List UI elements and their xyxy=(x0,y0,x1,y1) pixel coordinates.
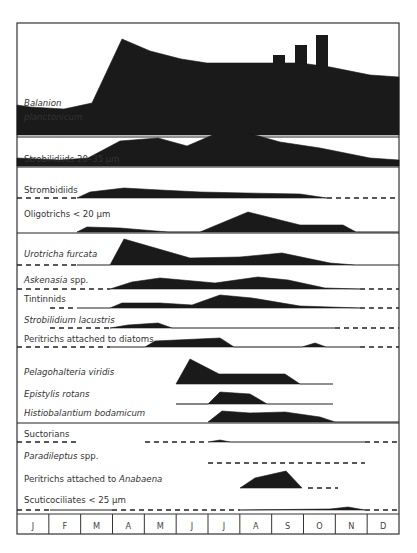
abundance-kite xyxy=(240,471,302,488)
series-label: Balanion xyxy=(24,98,61,108)
abundance-kite xyxy=(110,277,360,289)
month-label: F xyxy=(62,521,67,531)
abundance-kite xyxy=(110,295,360,308)
series-label: Histiobalantium bodamicum xyxy=(24,408,145,418)
series-suctorians: Suctorians xyxy=(17,429,399,442)
series-label: Paradileptus spp. xyxy=(24,451,98,461)
abundance-kite xyxy=(110,239,355,265)
abundance-kite xyxy=(110,323,172,328)
series-label: Strobilidiids 20–35 µm xyxy=(24,154,120,164)
chart-canvas: < 0.1< 0.3131030cells/mL Balanionplancto… xyxy=(0,0,417,553)
series-label: Peritrichs attached to diatoms xyxy=(24,334,154,344)
series-balanion-planctonicum: Balanionplanctonicum xyxy=(17,39,399,135)
abundance-kite xyxy=(208,440,230,442)
month-label: A xyxy=(253,521,259,531)
month-label: D xyxy=(380,521,386,531)
series-label: Strombidiids xyxy=(24,185,78,195)
series-label: Pelagohalteria viridis xyxy=(24,367,115,377)
series-pelagohalteria-viridis: Pelagohalteria viridis xyxy=(24,359,333,384)
abundance-kite xyxy=(77,188,327,198)
abundance-kite xyxy=(240,507,365,510)
series-paradileptus-spp-: Paradileptus spp. xyxy=(24,451,365,463)
series-strombidiids: Strombidiids xyxy=(17,185,399,198)
series-label: Peritrichs attached to Anabaena xyxy=(24,474,162,484)
abundance-kite xyxy=(176,359,300,384)
series-label: Suctorians xyxy=(24,429,70,439)
kite-chart: < 0.1< 0.3131030cells/mL Balanionplancto… xyxy=(0,0,417,553)
series-epistylis-rotans: Epistylis rotans xyxy=(24,389,333,404)
series-scuticociliates-25-m: Scuticociliates < 25 µm xyxy=(17,495,399,510)
abundance-kite xyxy=(77,212,356,232)
series-oligotrichs-20-m: Oligotrichs < 20 µm xyxy=(24,209,399,232)
abundance-kite xyxy=(145,338,326,347)
series-label: Oligotrichs < 20 µm xyxy=(24,209,110,219)
abundance-kite xyxy=(208,392,267,404)
month-label: J xyxy=(222,521,225,531)
abundance-kite xyxy=(208,411,335,422)
series-histiobalantium-bodamicum: Histiobalantium bodamicum xyxy=(24,408,399,422)
series-peritrichs-attached-to-diatoms: Peritrichs attached to diatoms xyxy=(17,334,399,347)
series-peritrichs-attached-to-anabaena: Peritrichs attached to Anabaena xyxy=(24,471,338,488)
series-strobilidium-lacustris: Strobilidium lacustris xyxy=(24,315,399,328)
month-label: J xyxy=(190,521,193,531)
month-label: J xyxy=(31,521,34,531)
month-label: M xyxy=(157,521,164,531)
month-label: O xyxy=(316,521,322,531)
series-label: Askenasia spp. xyxy=(23,275,88,285)
month-label: M xyxy=(93,521,100,531)
series-label: Scuticociliates < 25 µm xyxy=(24,495,126,505)
month-label: A xyxy=(126,521,132,531)
series-urotricha-furcata: Urotricha furcata xyxy=(17,239,399,265)
month-label: S xyxy=(285,521,290,531)
month-label: N xyxy=(348,521,354,531)
series-label: Urotricha furcata xyxy=(24,249,97,259)
series-tintinnids: Tintinnids xyxy=(23,294,399,308)
series-label: Tintinnids xyxy=(23,294,66,304)
series-group: BalanionplanctonicumStrobilidiids 20–35 … xyxy=(17,39,399,510)
series-label: Epistylis rotans xyxy=(24,389,90,399)
month-axis: JFMAMJJASOND xyxy=(17,514,399,534)
series-label: Strobilidium lacustris xyxy=(24,315,115,325)
series-strobilidiids-20-35-m: Strobilidiids 20–35 µm xyxy=(17,133,399,166)
series-askenasia-spp-: Askenasia spp. xyxy=(17,275,399,289)
series-label: planctonicum xyxy=(23,112,82,122)
